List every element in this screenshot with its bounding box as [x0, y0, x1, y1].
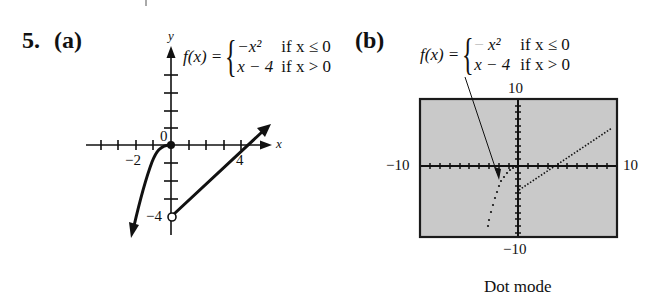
window-ymax: 10: [508, 80, 523, 97]
x-axis-label: x: [276, 136, 282, 152]
formula-a-piece1-expr: −x²: [237, 37, 281, 57]
brace-icon: {: [225, 37, 232, 77]
problem-number-text: 5.: [22, 27, 40, 53]
y-axis-label: y: [168, 28, 174, 44]
open-circle: [168, 213, 176, 221]
origin-label: 0: [160, 128, 168, 145]
y-tick-neg4: −4: [146, 208, 162, 225]
x-tick-neg2: −2: [125, 152, 141, 169]
window-xmin: −10: [386, 157, 409, 174]
window-ymin: −10: [503, 241, 526, 258]
problem-number: 5. (a): [22, 27, 82, 54]
formula-a-piece2-expr: x − 4: [237, 57, 281, 77]
formula-b-piece1-cond: if x ≤ 0: [520, 35, 569, 54]
formula-a-pieces: −x²if x ≤ 0 x − 4if x > 0: [237, 37, 331, 77]
window-xmax: 10: [623, 157, 638, 174]
formula-b-piece2-expr: x − 4: [474, 55, 520, 75]
formula-a-piece1-cond: if x ≤ 0: [281, 37, 330, 56]
formula-a-piece2-cond: if x > 0: [281, 57, 331, 76]
closed-dot: [167, 141, 175, 149]
x-tick-4: 4: [236, 152, 244, 169]
brace-icon: {: [462, 35, 469, 75]
formula-a-lhs: f(x) =: [183, 47, 222, 67]
part-b-label: (b): [355, 27, 384, 54]
formula-b-piece2-cond: if x > 0: [520, 55, 570, 74]
formula-b-piece1-expr: x²: [488, 35, 501, 54]
formula-a: f(x) = { −x²if x ≤ 0 x − 4if x > 0: [183, 37, 331, 77]
formula-b-lhs: f(x) =: [420, 45, 459, 65]
formula-b: f(x) = { −x²if x ≤ 0 x − 4if x > 0: [420, 35, 570, 75]
dot-mode-caption: Dot mode: [484, 277, 552, 296]
formula-b-pieces: −x²if x ≤ 0 x − 4if x > 0: [474, 35, 570, 75]
part-a-label: (a): [54, 27, 82, 53]
formula-b-piece1-sign: −: [474, 35, 484, 54]
